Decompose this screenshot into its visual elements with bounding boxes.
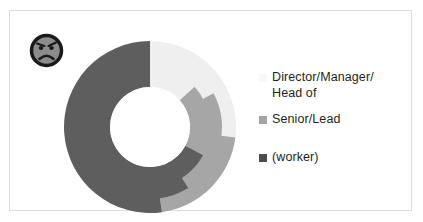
legend-item-senior[interactable]: Senior/Lead [259, 111, 419, 127]
donut-chart [60, 37, 240, 217]
angry-face-icon [29, 33, 64, 68]
donut-center-hole [110, 87, 190, 167]
donut-rings [64, 41, 236, 213]
legend-swatch-director [259, 74, 267, 82]
legend-swatch-senior [259, 116, 267, 124]
legend-label-senior: Senior/Lead [272, 111, 341, 127]
legend-item-worker[interactable]: (worker) [259, 149, 419, 165]
legend-swatch-worker [259, 154, 267, 162]
legend-item-director[interactable]: Director/Manager/ Head of [259, 69, 419, 101]
chart-card: Director/Manager/ Head of Senior/Lead (w… [9, 10, 412, 211]
chart-legend: Director/Manager/ Head of Senior/Lead (w… [259, 69, 419, 165]
legend-label-director: Director/Manager/ Head of [272, 69, 374, 101]
screenshot-root: Director/Manager/ Head of Senior/Lead (w… [0, 0, 423, 222]
legend-label-worker: (worker) [272, 149, 319, 165]
